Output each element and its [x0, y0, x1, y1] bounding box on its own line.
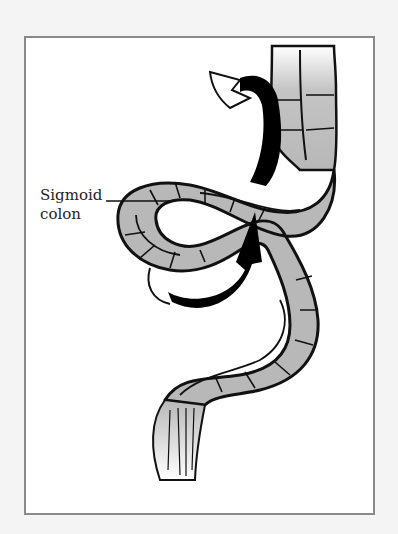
label-line-1: Sigmoid	[40, 186, 102, 205]
descending-colon	[271, 46, 336, 170]
label-line-2: colon	[40, 205, 102, 224]
rotation-arrow-outline	[210, 72, 281, 186]
sigmoid-colon-illustration	[0, 0, 398, 534]
rectum	[153, 400, 205, 480]
sigmoid-colon-label: Sigmoid colon	[40, 186, 102, 224]
